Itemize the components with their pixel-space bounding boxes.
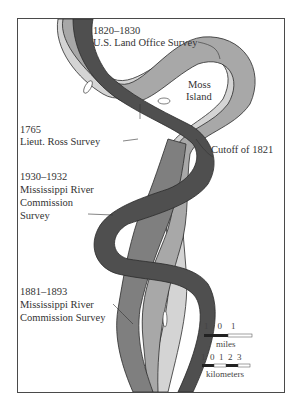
leader-line	[123, 139, 138, 141]
label-cutoff: Cutoff of 1821	[211, 144, 273, 156]
label-1820-years: 1820–1830	[93, 25, 140, 37]
label-island: Island	[186, 91, 212, 103]
label-1881-l3: Commission Survey	[20, 312, 105, 324]
scale-bar-km	[202, 364, 250, 367]
label-1881-years: 1881–1893	[20, 286, 67, 298]
scale-miles-ticks: 1 0 1	[204, 321, 236, 331]
scale-miles-unit: miles	[216, 339, 236, 349]
label-1765-year: 1765	[20, 124, 41, 136]
island	[163, 311, 167, 327]
label-1930-years: 1930–1932	[20, 171, 67, 183]
scale-km-ticks: 1 0 1 2 3	[201, 352, 242, 362]
scale-km-unit: kilometers	[206, 369, 244, 379]
label-1881-l2: Mississippi River	[20, 299, 94, 311]
label-1820-name: U.S. Land Office Survey	[93, 37, 198, 49]
leader-line	[88, 214, 113, 215]
label-1930-l2: Mississippi River	[20, 184, 94, 196]
scale-bar-miles	[204, 334, 252, 337]
label-1765-name: Lieut. Ross Survey	[20, 136, 100, 148]
island	[158, 98, 170, 104]
map-frame: 1820–1830 U.S. Land Office Survey Moss I…	[17, 18, 285, 393]
label-moss: Moss	[188, 79, 211, 91]
label-1930-l4: Survey	[20, 210, 50, 222]
label-1930-l3: Commission	[20, 197, 73, 209]
